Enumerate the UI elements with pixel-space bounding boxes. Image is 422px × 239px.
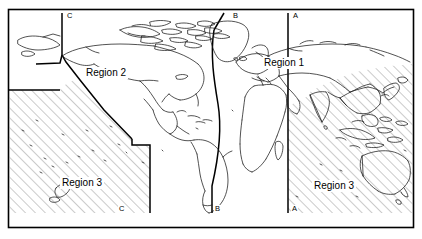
- region-2-label: Region 2: [84, 67, 128, 79]
- boundary-b-bottom-label: B: [214, 205, 221, 213]
- boundary-a-bottom-label: A: [291, 205, 298, 213]
- region-1-label: Region 1: [262, 57, 306, 69]
- region-3-right-label: Region 3: [312, 180, 356, 192]
- boundary-a-top-label: A: [292, 12, 299, 20]
- boundary-c-bottom-label: C: [118, 205, 125, 213]
- region-3-left-label: Region 3: [60, 177, 104, 189]
- boundary-b-top-label: B: [232, 12, 239, 20]
- map-canvas: [0, 0, 422, 239]
- world-region-map-figure: Region 2 Region 1 Region 3 Region 3 C C …: [0, 0, 422, 239]
- boundary-c-top-label: C: [66, 12, 73, 20]
